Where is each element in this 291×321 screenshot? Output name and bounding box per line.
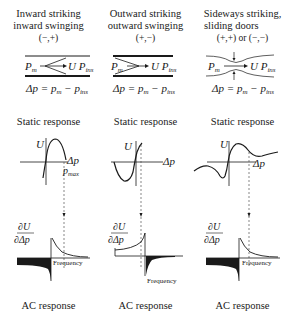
static-response-graph: U Δp [111, 140, 175, 268]
equation: Δp = pm − pins [112, 82, 175, 96]
ac-response-label: AC response [97, 300, 194, 311]
arrow-down-icon [140, 213, 143, 217]
svg-text:∂U: ∂U [113, 221, 126, 232]
equation: Δp = pm − pins [25, 82, 88, 96]
arrow-icon [145, 64, 149, 68]
svg-text:∂Δp: ∂Δp [14, 234, 30, 245]
svg-text:Pm: Pm [207, 60, 220, 74]
svg-text:U Pins: U Pins [250, 60, 276, 74]
column-outward-striking: Outward striking outward swinging (+,−) … [97, 0, 194, 321]
ac-response-label: AC response [194, 300, 291, 311]
svg-text:Frequency: Frequency [147, 277, 177, 285]
arrow-icon [244, 64, 248, 68]
svg-text:U: U [124, 140, 133, 152]
static-response-graph: U Δp pmax [20, 138, 79, 268]
arrow-icon [63, 64, 67, 68]
channel-diagram: Pm U Pins [110, 56, 177, 76]
ac-response-label: AC response [0, 300, 97, 311]
column-3-graphics: Pm U Pins Δp = pm − pins U Δp ∂U ∂Δp Fre… [194, 0, 291, 321]
svg-text:Pm: Pm [110, 60, 123, 74]
equation: Δp = pm − pins [211, 82, 274, 96]
svg-text:Frequency: Frequency [53, 259, 83, 267]
arrow-down-icon [63, 213, 66, 217]
ac-response-graph: ∂U ∂Δp Frequency [14, 221, 90, 281]
svg-text:∂Δp: ∂Δp [204, 234, 220, 245]
arrow-up-icon [233, 71, 236, 74]
svg-text:U Pins: U Pins [151, 60, 177, 74]
ac-response-graph: ∂U ∂Δp Frequency [108, 221, 183, 285]
arrow-down-icon [233, 58, 236, 61]
column-inward-striking: Inward striking inward swinging (−,+) Pm… [0, 0, 97, 321]
svg-text:pmax: pmax [62, 165, 79, 177]
static-response-label: Static response [0, 116, 97, 127]
column-1-graphics: Pm U Pins Δp = pm − pins U Δp pmax ∂U ∂Δ… [0, 0, 97, 321]
static-response-graph: U Δp [194, 138, 278, 268]
column-sideways-striking: Sideways striking, sliding doors (+,+) o… [194, 0, 291, 321]
svg-text:Pm: Pm [24, 60, 37, 74]
svg-text:U: U [36, 138, 45, 150]
static-response-label: Static response [97, 116, 194, 127]
svg-text:Δp: Δp [252, 157, 265, 169]
svg-text:Δp: Δp [162, 155, 175, 167]
svg-text:Frequency: Frequency [242, 259, 272, 267]
channel-diagram: Pm U Pins [206, 52, 276, 80]
svg-text:U: U [220, 138, 229, 150]
svg-text:∂U: ∂U [18, 221, 31, 232]
static-response-label: Static response [194, 116, 291, 127]
svg-text:U Pins: U Pins [68, 60, 94, 74]
column-2-graphics: Pm U Pins Δp = pm − pins U Δp ∂U ∂Δp Fre… [97, 0, 194, 321]
ac-response-graph: ∂U ∂Δp Frequency [204, 221, 280, 281]
svg-text:Δp: Δp [66, 154, 79, 166]
arrow-down-icon [248, 213, 251, 217]
svg-text:∂Δp: ∂Δp [108, 234, 124, 245]
channel-diagram: Pm U Pins [24, 56, 94, 76]
svg-text:∂U: ∂U [208, 221, 221, 232]
